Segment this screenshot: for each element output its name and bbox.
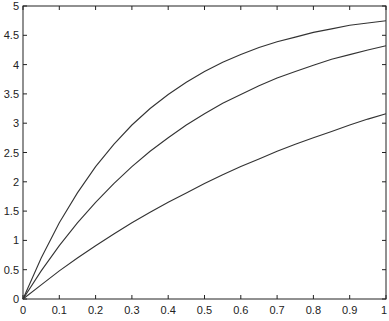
plot-area [23, 6, 386, 299]
y-tick-label: 2.5 [4, 147, 19, 159]
y-tick-label: 4 [13, 59, 19, 71]
x-tick-label: 0.3 [124, 304, 139, 316]
x-tick-label: 0 [20, 304, 26, 316]
line-chart: 00.10.20.30.40.50.60.70.80.91 00.511.522… [0, 0, 389, 321]
y-tick-label: 0.5 [4, 264, 19, 276]
x-tick-label: 1 [381, 304, 387, 316]
y-tick-label: 2 [13, 176, 19, 188]
y-tick-label: 3 [13, 117, 19, 129]
x-tick-label: 0.9 [342, 304, 357, 316]
x-tick-label: 0.6 [233, 304, 248, 316]
y-tick-label: 5 [13, 0, 19, 12]
y-tick-label: 0 [13, 293, 19, 305]
y-tick-label: 1 [13, 234, 19, 246]
x-tick-label: 0.8 [306, 304, 321, 316]
y-tick-label: 4.5 [4, 29, 19, 41]
x-tick-label: 0.2 [88, 304, 103, 316]
x-tick-label: 0.5 [197, 304, 212, 316]
x-tick-label: 0.4 [161, 304, 176, 316]
y-tick-label: 1.5 [4, 205, 19, 217]
x-tick-label: 0.1 [52, 304, 67, 316]
x-tick-label: 0.7 [269, 304, 284, 316]
y-tick-label: 3.5 [4, 88, 19, 100]
